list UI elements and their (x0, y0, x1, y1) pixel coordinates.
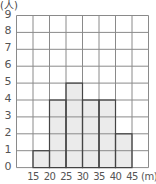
y-tick-label: 1 (3, 144, 13, 156)
x-tick-label: 40 (110, 171, 122, 183)
y-tick-label: 4 (3, 93, 13, 105)
histogram-chart: (人) 0123456789 15202530354045 (m) (0, 0, 156, 184)
x-tick-label: 25 (60, 171, 72, 183)
histogram-bar (33, 151, 50, 168)
x-axis-unit: (m) (141, 171, 156, 183)
y-tick-label: 0 (3, 161, 13, 173)
y-tick-label: 5 (3, 76, 13, 88)
y-tick-label: 3 (3, 110, 13, 122)
x-tick-label: 15 (27, 171, 39, 183)
y-tick-label: 9 (3, 9, 13, 21)
plot-area (0, 0, 156, 184)
x-tick-label: 45 (126, 171, 138, 183)
y-tick-label: 6 (3, 59, 13, 71)
x-tick-label: 35 (93, 171, 105, 183)
x-tick-label: 20 (44, 171, 56, 183)
y-tick-label: 7 (3, 42, 13, 54)
y-tick-label: 8 (3, 25, 13, 37)
histogram-bar (66, 83, 83, 168)
x-tick-label: 30 (77, 171, 89, 183)
y-tick-label: 2 (3, 127, 13, 139)
